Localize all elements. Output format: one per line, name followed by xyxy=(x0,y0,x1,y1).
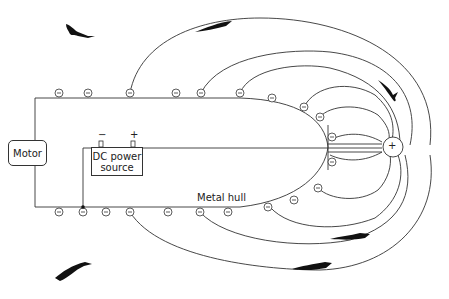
minus-terminal-label: − xyxy=(98,130,106,140)
anode-label: + xyxy=(388,141,396,151)
diagram-svg xyxy=(0,0,449,299)
motor-box: Motor xyxy=(8,140,47,166)
motor-label: Motor xyxy=(13,148,42,159)
plus-terminal-label: + xyxy=(130,130,138,140)
dc-label-line1: DC power xyxy=(93,151,142,162)
dc-power-source-box: DC power source xyxy=(91,147,143,176)
hull-label: Metal hull xyxy=(197,193,246,203)
field-line xyxy=(130,18,431,145)
dc-label-line2: source xyxy=(100,162,133,173)
metal-hull-outline xyxy=(35,98,328,207)
diagram-canvas: Motor DC power source − + + Metal hull xyxy=(0,0,449,299)
